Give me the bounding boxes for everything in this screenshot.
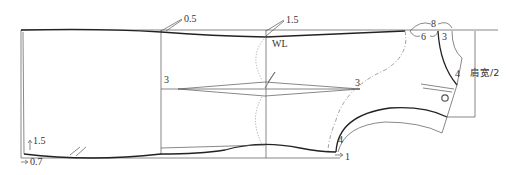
label-dart-left: 3 — [164, 74, 169, 85]
label-wl: WL — [272, 38, 288, 49]
label-neck-width: 6 — [421, 31, 426, 42]
armhole-curve — [336, 108, 447, 152]
shoulder-side-line — [442, 117, 447, 133]
sleeve-cap-lower — [338, 122, 442, 152]
leader-0-5b — [166, 20, 182, 31]
leader-0-5 — [161, 19, 182, 31]
label-neck-depth: 3 — [442, 31, 447, 42]
arrow-right-0-7 — [21, 160, 28, 164]
leader-1-5b — [266, 21, 284, 36]
center-front-inner-line — [23, 32, 24, 154]
label-1-5-waist: 1.5 — [286, 14, 299, 25]
label-underarm: 4 — [338, 134, 343, 145]
arrow-right-1 — [335, 153, 343, 157]
top-edge-curve — [21, 29, 405, 37]
dart-mark — [265, 72, 275, 88]
label-dart-right: 3 — [355, 77, 360, 88]
label-armhole-shift: 1 — [345, 151, 350, 162]
label-neck-total: 8 — [431, 18, 436, 29]
arrow-up-1-5 — [28, 140, 32, 150]
label-shoulder-width: 肩宽/2 — [470, 67, 499, 78]
waist-dotted-curve-bottom — [255, 97, 264, 148]
button-mark — [442, 95, 448, 101]
bottom-inner-line — [161, 145, 266, 148]
shoulder-dart — [421, 84, 454, 92]
label-shoulder-drop: 4 — [455, 68, 460, 79]
label-hem-raise: 1.5 — [33, 135, 46, 146]
waist-dotted-curve-top — [256, 37, 266, 80]
bottom-edge-curve — [24, 144, 336, 158]
pattern-diagram: 0.5 1.5 WL 3 3 8 6 3 4 肩宽/2 4 1 1.5 0.7 — [0, 0, 516, 175]
leader-1-5 — [266, 20, 284, 31]
label-hem-shift: 0.7 — [30, 156, 43, 167]
label-0-5: 0.5 — [184, 13, 197, 24]
hem-notch-marks — [70, 147, 86, 156]
shoulder-point-line — [447, 85, 457, 117]
